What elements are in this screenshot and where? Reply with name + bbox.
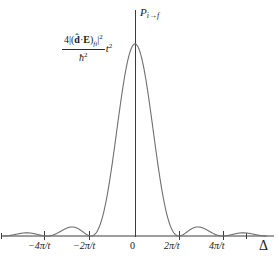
x-tick-label-plus-4pi-over-t: 4π/t bbox=[209, 240, 225, 251]
x-tick-label-minus-2pi-over-t: −2π/t bbox=[73, 240, 95, 251]
numerator-exponent: 2 bbox=[99, 33, 103, 41]
caption-fragment bbox=[2, 256, 277, 266]
x-tick-label-minus-4pi-over-t: −4π/t bbox=[28, 240, 50, 251]
y-axis-label: Pi→f bbox=[140, 6, 159, 20]
time-squared-factor: t2 bbox=[105, 42, 113, 54]
x-tick-label-zero: 0 bbox=[130, 240, 135, 251]
y-axis-label-symbol: P bbox=[140, 6, 147, 18]
field-symbol: E bbox=[83, 34, 90, 45]
denominator-exponent: 2 bbox=[84, 51, 88, 59]
numerator-prefix: 4|( bbox=[64, 34, 74, 45]
y-axis-label-subscript: i→f bbox=[147, 11, 159, 20]
peak-value-numerator: 4|(d̂·E)fi|2 bbox=[62, 33, 105, 50]
peak-value-denominator: ħ2 bbox=[62, 50, 105, 64]
plot-canvas bbox=[0, 0, 279, 268]
probability-vs-detuning-figure: Pi→f Δ −4π/t −2π/t 0 2π/t 4π/t 4|(d̂·E)f… bbox=[0, 0, 279, 268]
peak-value-annotation: 4|(d̂·E)fi|2 ħ2 t2 bbox=[62, 33, 112, 64]
peak-value-fraction: 4|(d̂·E)fi|2 ħ2 bbox=[62, 33, 105, 64]
time-exponent: 2 bbox=[109, 42, 113, 50]
x-tick-label-plus-2pi-over-t: 2π/t bbox=[164, 240, 180, 251]
x-axis-label: Δ bbox=[259, 238, 268, 254]
